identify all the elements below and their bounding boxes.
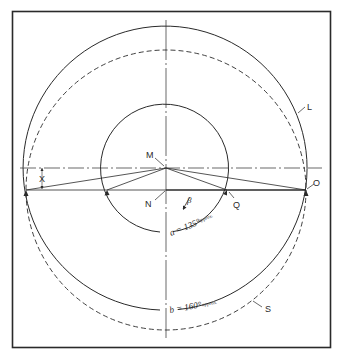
label-L: L xyxy=(307,102,312,112)
label-N: N xyxy=(145,199,152,209)
ray-M-O xyxy=(166,168,306,190)
arrowhead-O xyxy=(304,190,309,196)
x-dimension-label: X xyxy=(39,174,45,184)
angle-b-approx: approx. xyxy=(202,300,218,308)
geometry-diagram: X M N Q O L S β a = 135° approx. b = 160… xyxy=(0,0,346,359)
leader-M xyxy=(155,158,164,166)
label-Q: Q xyxy=(233,200,240,210)
leader-L xyxy=(298,107,305,113)
label-O: O xyxy=(313,178,320,188)
diagram-frame xyxy=(13,12,331,348)
arrowhead-left xyxy=(24,190,29,196)
leader-N xyxy=(155,191,165,200)
ray-M-left xyxy=(26,168,166,190)
leader-Q xyxy=(229,192,234,198)
leader-S xyxy=(253,301,262,307)
beta-label: β xyxy=(186,195,192,205)
label-M: M xyxy=(146,150,154,160)
ray-M-inner-left xyxy=(107,168,166,190)
angle-a-approx: approx. xyxy=(197,213,213,223)
angle-b-label: b = 160° xyxy=(169,299,203,315)
x-dimension-arrow-top xyxy=(41,168,44,171)
label-S: S xyxy=(265,304,271,314)
ray-M-Q xyxy=(166,168,227,190)
